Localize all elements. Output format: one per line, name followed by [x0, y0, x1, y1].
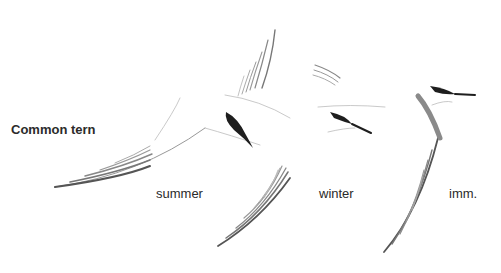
- summer-tern: [55, 30, 290, 187]
- immature-label: imm.: [449, 186, 477, 201]
- winter-label: winter: [319, 186, 354, 201]
- immature-tern: [384, 86, 475, 252]
- species-title: Common tern: [11, 122, 96, 137]
- tern-illustration-plate: Common tern summer winter imm.: [0, 0, 501, 273]
- summer-label: summer: [156, 186, 203, 201]
